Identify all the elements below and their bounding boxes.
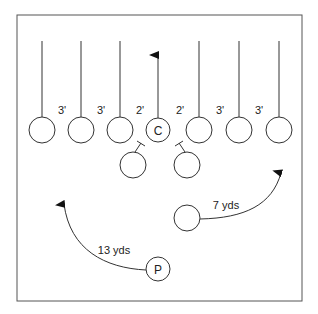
split-label-5: 3' <box>216 104 224 116</box>
split-label-4: 2' <box>176 104 184 116</box>
lineman-l5 <box>186 117 212 143</box>
back-player <box>174 205 200 231</box>
lineman-l6 <box>226 117 252 143</box>
block-line-b2 <box>179 143 185 152</box>
lineman-l3 <box>107 117 133 143</box>
blockers <box>120 141 200 178</box>
lineman-l1 <box>29 117 55 143</box>
punter-label: P <box>154 263 162 277</box>
punter-route-arrow <box>64 204 146 270</box>
block-cap-b2 <box>175 141 183 146</box>
blocker-b2 <box>174 152 200 178</box>
back-route-arrow <box>200 173 281 219</box>
blocker-b1 <box>120 152 146 178</box>
split-label-1: 3' <box>58 104 66 116</box>
block-cap-b1 <box>137 141 145 146</box>
split-label-3: 2' <box>136 104 144 116</box>
back-route-label: 7 yds <box>213 199 240 211</box>
punter-route-label: 13 yds <box>98 244 131 256</box>
lineman-l2 <box>68 117 94 143</box>
formation-diagram: C 3' 3' 2' 2' 3' 3' 7 yds P 13 yds <box>0 0 318 314</box>
center-label: C <box>154 124 163 138</box>
block-line-b1 <box>135 143 141 152</box>
lineman-l7 <box>266 117 292 143</box>
lineman-route-lines <box>42 41 279 117</box>
split-label-2: 3' <box>97 104 105 116</box>
split-label-6: 3' <box>255 104 263 116</box>
